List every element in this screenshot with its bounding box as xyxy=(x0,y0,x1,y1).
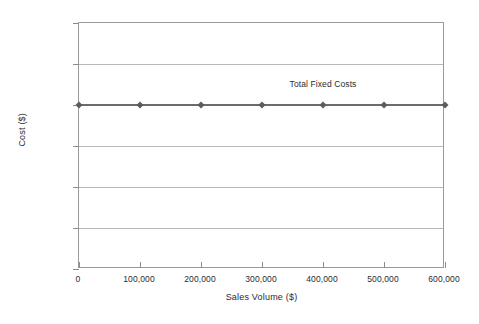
x-tick-label: 400,000 xyxy=(306,274,337,284)
x-tick-label: 0 xyxy=(76,274,81,284)
plot-area: Total Fixed Costs xyxy=(78,22,444,268)
y-axis-title: Cost ($) xyxy=(17,113,27,147)
gridline-horizontal xyxy=(79,64,443,65)
x-axis-tick xyxy=(79,262,80,268)
x-axis-tick xyxy=(384,262,385,268)
x-tick-label: 300,000 xyxy=(245,274,276,284)
y-axis-tick xyxy=(73,23,79,24)
x-tick-label: 600,000 xyxy=(428,274,459,284)
x-axis-tick xyxy=(262,262,263,268)
x-tick-label: 100,000 xyxy=(123,274,154,284)
data-point-marker xyxy=(441,101,448,108)
data-point-marker xyxy=(75,101,82,108)
data-point-marker xyxy=(136,101,143,108)
x-axis-tick xyxy=(201,262,202,268)
x-tick-label: 500,000 xyxy=(367,274,398,284)
x-axis-tick xyxy=(323,262,324,268)
data-point-marker xyxy=(258,101,265,108)
gridline-horizontal xyxy=(79,146,443,147)
x-axis-title: Sales Volume ($) xyxy=(0,292,479,302)
x-tick-label: 200,000 xyxy=(184,274,215,284)
x-axis-tick xyxy=(140,262,141,268)
y-axis-tick xyxy=(73,64,79,65)
data-point-marker xyxy=(319,101,326,108)
data-point-marker xyxy=(197,101,204,108)
gridline-horizontal xyxy=(79,228,443,229)
y-axis-tick xyxy=(73,187,79,188)
data-point-marker xyxy=(380,101,387,108)
x-axis-tick xyxy=(445,262,446,268)
y-axis-tick xyxy=(73,146,79,147)
y-axis-tick xyxy=(73,228,79,229)
fixed-cost-line-chart: Cost ($) Total Fixed Costs 050,000100,00… xyxy=(0,0,479,324)
y-axis-tick xyxy=(73,269,79,270)
series-annotation-total-fixed-costs: Total Fixed Costs xyxy=(290,79,357,89)
gridline-horizontal xyxy=(79,187,443,188)
